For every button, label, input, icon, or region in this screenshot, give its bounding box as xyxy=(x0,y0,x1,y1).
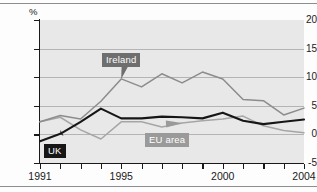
callout-eu-area: EU area xyxy=(145,133,189,147)
callout-uk: UK xyxy=(44,144,66,158)
callout-ireland: Ireland xyxy=(102,53,140,67)
chart-figure: % 20151050-5 1991199520002004 IrelandUKE… xyxy=(0,0,317,192)
series-layer xyxy=(0,0,317,192)
series-line-ireland xyxy=(40,72,304,122)
